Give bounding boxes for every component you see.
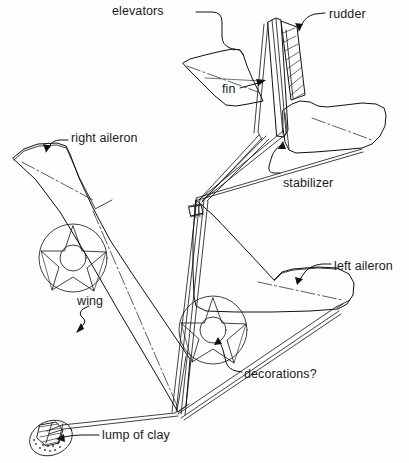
elevator-hinge-left [233,49,243,55]
tail-left-surface [183,49,263,106]
leader-wing [76,306,89,333]
leader-rudder [295,13,325,31]
leader-right-aileron [43,140,68,152]
label-rudder: rudder [329,8,366,21]
label-wing: wing [77,295,103,308]
rudder-panel [281,21,305,100]
label-lump-of-clay: lump of clay [102,429,170,442]
label-right-aileron: right aileron [71,132,138,145]
label-decorations: decorations? [244,368,317,381]
diagram-drawing [0,0,409,463]
leader-elevators [196,12,234,50]
airplane-parts-diagram: elevators rudder fin right aileron stabi… [0,0,409,463]
label-stabilizer: stabilizer [283,177,333,190]
wing-right-panel [13,143,190,412]
label-elevators: elevators [112,5,164,18]
leader-lump-of-clay [56,434,99,442]
star-roundel-left-wing [179,296,247,364]
boom-binding [188,204,204,218]
fin-and-rudder [254,18,305,140]
label-left-aileron: left aileron [334,260,393,273]
wing-left-panel [193,200,354,312]
wing-lower-spar [178,307,341,420]
label-fin: fin [222,83,236,96]
